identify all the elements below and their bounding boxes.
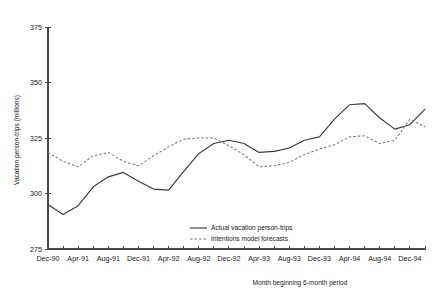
x-tick-label: Aug-94 xyxy=(368,254,391,263)
y-tick-label: 275 xyxy=(30,245,42,254)
line-chart: 275300325350375 Dec-90Apr-91Aug-91Dec-91… xyxy=(0,0,448,293)
x-tick-label: Aug-93 xyxy=(278,254,301,263)
x-tick-label: Dec-93 xyxy=(308,254,331,263)
legend-label: Intentions model forecasts xyxy=(211,235,289,242)
data-series-group xyxy=(48,104,425,215)
y-axis-title: Vacation person-trips (millions) xyxy=(13,95,21,185)
series-line-actual xyxy=(48,104,425,215)
legend-label: Actual vacation person-trips xyxy=(211,224,293,232)
x-axis-title: Month beginning 6-month period xyxy=(253,279,348,287)
series-line-forecast xyxy=(48,119,425,167)
chart-legend: Actual vacation person-tripsIntentions m… xyxy=(190,224,293,242)
x-tick-label: Dec-92 xyxy=(217,254,240,263)
x-tick-label: Aug-91 xyxy=(97,254,120,263)
x-tick-label: Apr-94 xyxy=(339,254,361,263)
y-tick-label: 325 xyxy=(30,134,42,143)
x-tick-label: Apr-92 xyxy=(158,254,180,263)
y-tick-label: 350 xyxy=(30,78,42,87)
x-tick-label: Apr-91 xyxy=(67,254,89,263)
y-tick-label: 375 xyxy=(30,23,42,32)
x-tick-label: Dec-90 xyxy=(36,254,59,263)
x-tick-label: Apr-93 xyxy=(248,254,270,263)
x-tick-label: Dec-91 xyxy=(127,254,150,263)
x-axis: Dec-90Apr-91Aug-91Dec-91Apr-92Aug-92Dec-… xyxy=(36,246,425,263)
chart-container: 275300325350375 Dec-90Apr-91Aug-91Dec-91… xyxy=(0,0,448,293)
y-axis: 275300325350375 xyxy=(30,23,51,254)
x-tick-label: Dec-94 xyxy=(398,254,421,263)
x-tick-label: Aug-92 xyxy=(187,254,210,263)
y-tick-label: 300 xyxy=(30,189,42,198)
